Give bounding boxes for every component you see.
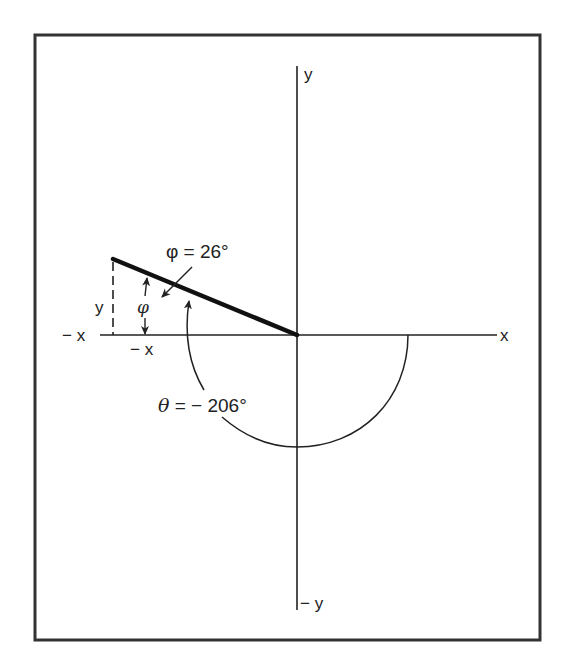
phi-symbol-label: φ	[137, 297, 149, 317]
phi-arrow-up	[145, 278, 147, 296]
y-axis-negative-label: − y	[300, 594, 324, 613]
y-component-label: y	[95, 298, 104, 317]
x-component-label: − x	[130, 340, 154, 359]
phi-value-label: φ = 26°	[166, 241, 229, 262]
figure-frame	[35, 35, 540, 640]
polar-angle-diagram: y − y x − x y − x φ φ = 26° θ = − 206°	[0, 0, 568, 665]
theta-symbol: θ	[158, 394, 170, 416]
theta-arc-upper	[187, 301, 204, 390]
theta-value-label: θ = − 206°	[158, 394, 247, 416]
theta-arc-lower	[222, 335, 408, 447]
x-axis-negative-label: − x	[62, 326, 86, 345]
y-axis-positive-label: y	[304, 65, 313, 84]
theta-value: = − 206°	[169, 395, 246, 416]
origin-point	[295, 333, 299, 337]
x-axis-positive-label: x	[500, 326, 509, 345]
